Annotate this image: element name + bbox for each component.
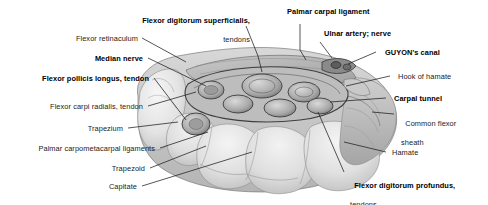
label-trapezium: Trapezium [0,124,123,133]
label-flexor-carpi-radialis: Flexor carpi radialis, tendon [0,102,143,111]
label-hamate: Hamate [392,148,418,157]
label-flexor-pollicis-longus: Flexor pollicis longus, tendon [0,74,149,83]
label-palmar-carpal-ligament: Palmar carpal ligament [287,7,370,16]
label-flexor-digitorum-profundus-main: Flexor digitorum profundus, [354,181,455,190]
label-flexor-retinaculum: Flexor retinaculum [0,34,138,43]
label-flexor-digitorum-profundus-sub: tendons [350,200,455,205]
tendon-fdp-1 [223,95,253,113]
label-carpal-tunnel: Carpal tunnel [394,94,442,103]
tendon-fdp-2 [264,99,296,117]
label-capitate: Capitate [0,182,137,191]
label-flexor-digitorum-superficialis-sub: tendons [120,35,250,44]
label-median-nerve: Median nerve [0,54,143,63]
label-flexor-digitorum-superficialis: Flexor digitorum superficialis, tendons [120,7,250,53]
label-trapezoid: Trapezoid [0,164,145,173]
label-common-flexor-sheath-main: Common flexor [405,119,456,128]
label-common-flexor-sheath-sub: sheath [401,138,456,147]
label-flexor-digitorum-profundus: Flexor digitorum profundus, tendons [350,172,455,205]
tendon-fds-1 [242,74,282,98]
ulnar-artery-section [331,62,341,69]
leader-guyons-canal [348,52,376,64]
label-hook-of-hamate: Hook of hamate [398,72,451,81]
ulnar-nerve-section [343,64,351,70]
label-guyons-canal: GUYON's canal [385,48,440,57]
label-ulnar-artery-nerve: Ulnar artery; nerve [324,29,391,38]
tendon-fdp-3 [307,98,333,114]
label-palmar-carpometacarpal-ligaments: Palmar carpometacarpal ligaments [0,144,155,153]
label-flexor-digitorum-superficialis-main: Flexor digitorum superficialis, [142,16,250,25]
